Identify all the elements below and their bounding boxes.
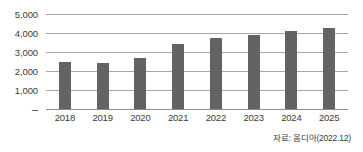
x-axis-tick-label: 2023	[235, 112, 273, 123]
source-note: 자료: 옴디아(2022.12)	[273, 131, 351, 143]
y-axis: 5,000 4,000 3,000 2,000 1,000 –	[0, 0, 44, 152]
plot-area	[46, 14, 348, 109]
y-axis-tick-label-zero: –	[32, 103, 38, 115]
bar-slot	[197, 14, 235, 109]
x-axis: 2018 2019 2020 2021 2022 2023 2024 2025	[46, 112, 348, 123]
bar-chart-figure: 5,000 4,000 3,000 2,000 1,000 – 2018	[0, 0, 363, 152]
y-axis-tick-label: 1,000	[15, 85, 38, 96]
x-axis-tick-label: 2022	[197, 112, 235, 123]
y-axis-tick-label: 2,000	[15, 66, 38, 77]
gridline-baseline-zero	[46, 109, 348, 110]
bar-slot	[159, 14, 197, 109]
bar-2025	[323, 28, 335, 109]
y-axis-tick-label: 4,000	[15, 28, 38, 39]
bar-series	[46, 14, 348, 109]
bar-2024	[285, 31, 297, 109]
x-axis-tick-label: 2020	[122, 112, 160, 123]
bar-slot	[235, 14, 273, 109]
bar-2021	[172, 44, 184, 109]
bar-2018	[59, 62, 71, 110]
bar-slot	[310, 14, 348, 109]
x-axis-tick-label: 2025	[310, 112, 348, 123]
y-axis-tick-label: 5,000	[15, 9, 38, 20]
bar-slot	[122, 14, 160, 109]
x-axis-tick-label: 2019	[84, 112, 122, 123]
bar-2020	[134, 58, 146, 109]
bar-2022	[210, 38, 222, 109]
x-axis-tick-label: 2024	[273, 112, 311, 123]
x-axis-tick-label: 2021	[159, 112, 197, 123]
bar-2023	[248, 35, 260, 109]
y-axis-tick-label: 3,000	[15, 47, 38, 58]
bar-2019	[97, 63, 109, 109]
bar-slot	[46, 14, 84, 109]
bar-slot	[273, 14, 311, 109]
bar-slot	[84, 14, 122, 109]
x-axis-tick-label: 2018	[46, 112, 84, 123]
